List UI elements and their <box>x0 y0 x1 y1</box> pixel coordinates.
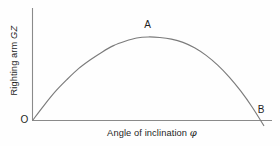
gz-curve-path <box>33 37 265 126</box>
y-axis-label-text: Righting arm <box>9 39 19 96</box>
origin-label: O <box>21 115 29 125</box>
apex-point-label: A <box>144 20 151 30</box>
zero-crossing-point-label: B <box>258 105 265 115</box>
x-axis-label: Angle of inclination φ <box>32 128 272 138</box>
x-axis-label-symbol: φ <box>190 127 197 138</box>
plot-area <box>0 0 280 146</box>
x-axis-label-text: Angle of inclination <box>107 128 190 138</box>
y-axis-label-symbol: GZ <box>9 26 19 39</box>
y-axis-label: Righting arm GZ <box>10 15 19 107</box>
righting-arm-curve-figure: Righting arm GZ Angle of inclination φ O… <box>0 0 280 146</box>
